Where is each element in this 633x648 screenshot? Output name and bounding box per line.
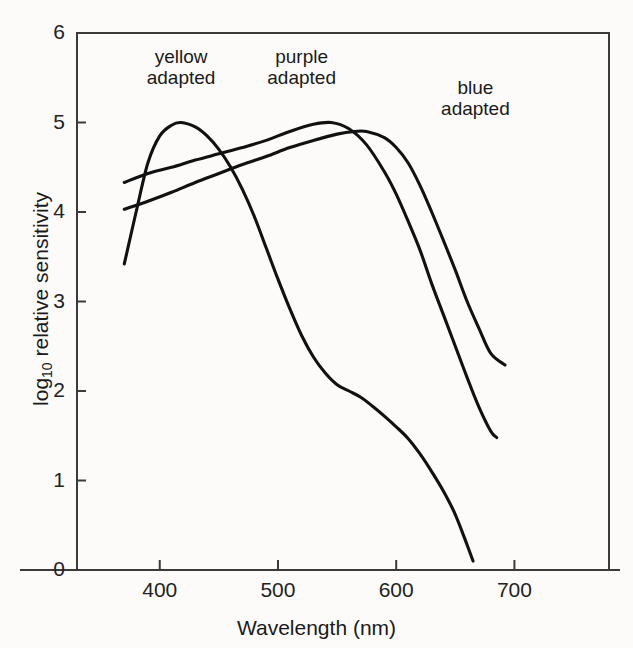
y-tick-label: 6 [35,20,65,44]
y-axis-title-subscript: 10 [39,362,55,378]
y-tick-label: 1 [35,468,65,492]
y-tick-label: 5 [35,110,65,134]
y-axis-title: log10 relative sensitivity [29,149,55,449]
figure-canvas: 0123456 400500600700 yellow adaptedpurpl… [0,0,633,648]
y-axis-ticks [77,123,86,481]
x-tick-label: 700 [484,578,544,602]
x-tick-label: 400 [130,578,190,602]
x-tick-label: 500 [248,578,308,602]
annotation-purple: purple adapted [227,46,377,89]
data-curves [124,122,505,561]
x-axis-title: Wavelength (nm) [0,616,633,640]
y-axis-title-rest: relative sensitivity [29,192,52,362]
y-axis-title-main: log [29,378,52,406]
curve-purple-adapted [124,122,496,437]
annotation-blue: blue adapted [400,77,550,120]
x-tick-label: 600 [366,578,426,602]
y-tick-label: 0 [35,557,65,581]
x-axis-ticks [160,560,515,570]
